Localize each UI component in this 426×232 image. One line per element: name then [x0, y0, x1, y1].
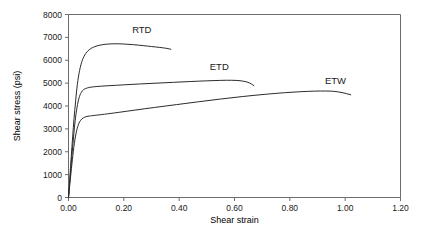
y-tick-label: 0: [57, 193, 62, 203]
y-tick-label: 5000: [43, 78, 62, 88]
curve-label-etd: ETD: [210, 61, 229, 72]
y-tick-label: 4000: [43, 101, 62, 111]
y-tick-label: 3000: [43, 124, 62, 134]
x-tick-label: 0.60: [226, 203, 243, 213]
x-tick-label: 0.80: [282, 203, 299, 213]
x-tick-label: 0.00: [60, 203, 77, 213]
shear-stress-strain-chart: 0.000.200.400.600.801.001.20 01000200030…: [0, 0, 426, 232]
y-tick-label: 1000: [43, 170, 62, 180]
y-tick-label: 2000: [43, 147, 62, 157]
curve-label-rtd: RTD: [132, 24, 151, 35]
y-axis-title: Shear stress (psi): [12, 71, 22, 142]
x-tick-label: 1.20: [392, 203, 409, 213]
curve-label-etw: ETW: [325, 75, 346, 86]
y-tick-label: 6000: [43, 55, 62, 65]
y-axis-tick-labels: 010002000300040005000600070008000: [43, 10, 62, 203]
x-axis-title: Shear strain: [210, 215, 259, 225]
x-tick-label: 1.00: [337, 203, 354, 213]
y-tick-label: 7000: [43, 32, 62, 42]
y-tick-label: 8000: [43, 10, 62, 20]
x-tick-label: 0.40: [171, 203, 188, 213]
x-tick-label: 0.20: [116, 203, 133, 213]
